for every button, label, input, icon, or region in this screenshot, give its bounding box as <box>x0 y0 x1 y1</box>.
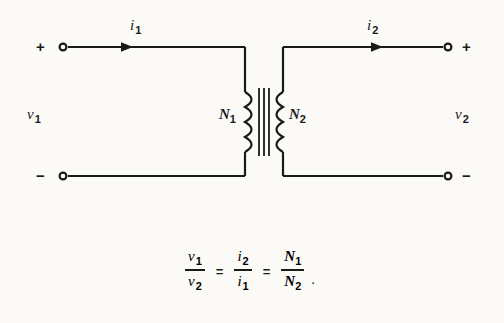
equals-sign-1: = <box>216 264 224 279</box>
terminal-right-top <box>445 44 452 51</box>
polarity-right-top: + <box>462 39 471 54</box>
equation-term-2-num-subscript: 1 <box>295 255 301 267</box>
label-voltage-primary-symbol: v <box>27 106 34 122</box>
primary-current-arrow <box>121 42 133 52</box>
figure-canvas: + − + − i1 i2 v1 v2 N1 N2 v1 v2 = <box>0 0 504 323</box>
polarity-right-bottom: − <box>462 168 471 183</box>
primary-coil <box>245 92 252 152</box>
label-voltage-secondary-subscript: 2 <box>463 113 469 125</box>
equation-term-2-num-symbol: N <box>284 248 295 264</box>
equation-term-2-den-subscript: 2 <box>295 280 301 292</box>
label-current-secondary-subscript: 2 <box>372 24 378 36</box>
equation-term-1-fraction-bar <box>234 269 251 271</box>
equation-trailing-period: . <box>311 271 315 288</box>
label-current-primary-symbol: i <box>130 17 134 33</box>
equation-term-turns-ratio: N1 N2 <box>281 248 304 292</box>
label-voltage-primary: v1 <box>27 107 41 125</box>
label-voltage-secondary-symbol: v <box>455 106 462 122</box>
polarity-left-top: + <box>36 39 45 54</box>
terminal-left-top <box>60 44 67 51</box>
label-turns-secondary-subscript: 2 <box>300 113 306 125</box>
equation-term-1-num-symbol: i <box>237 248 241 264</box>
secondary-current-arrow <box>371 42 383 52</box>
label-current-primary: i1 <box>130 18 141 36</box>
equation-term-1-numerator: i2 <box>234 248 251 267</box>
equation-term-2-den-symbol: N <box>284 273 295 289</box>
equation-term-1-den-subscript: 1 <box>243 280 249 292</box>
equation-term-current-ratio: i2 i1 <box>234 248 251 292</box>
equation-term-0-denominator: v2 <box>185 273 205 292</box>
equation-term-voltage-ratio: v1 v2 <box>185 248 205 292</box>
equation-term-1-num-subscript: 2 <box>243 255 249 267</box>
equation-term-1-denominator: i1 <box>234 273 251 292</box>
label-current-secondary-symbol: i <box>367 17 371 33</box>
equation-term-0-den-symbol: v <box>188 273 195 289</box>
equation-term-1-den-symbol: i <box>237 273 241 289</box>
equation-term-0-fraction-bar <box>185 269 205 271</box>
label-turns-secondary-symbol: N <box>289 106 300 122</box>
equation-term-0-numerator: v1 <box>185 248 205 267</box>
secondary-coil <box>277 92 284 152</box>
equation-term-2-denominator: N2 <box>281 273 304 292</box>
terminal-left-bottom <box>60 173 67 180</box>
label-turns-primary-subscript: 1 <box>230 113 236 125</box>
label-turns-primary: N1 <box>219 107 236 125</box>
label-current-secondary: i2 <box>367 18 378 36</box>
equation-term-2-numerator: N1 <box>281 248 304 267</box>
equation-term-0-num-subscript: 1 <box>196 255 202 267</box>
label-turns-secondary: N2 <box>289 107 306 125</box>
label-turns-primary-symbol: N <box>219 106 230 122</box>
label-current-primary-subscript: 1 <box>135 24 141 36</box>
polarity-left-bottom: − <box>36 168 45 183</box>
label-voltage-primary-subscript: 1 <box>35 113 41 125</box>
equation-term-0-num-symbol: v <box>188 248 195 264</box>
equation-term-0-den-subscript: 2 <box>196 280 202 292</box>
terminal-right-bottom <box>445 173 452 180</box>
label-voltage-secondary: v2 <box>455 107 469 125</box>
equation-term-2-fraction-bar <box>281 269 304 271</box>
transformer-ratio-equation: v1 v2 = i2 i1 = N1 N2 <box>0 248 504 292</box>
equals-sign-2: = <box>263 264 271 279</box>
